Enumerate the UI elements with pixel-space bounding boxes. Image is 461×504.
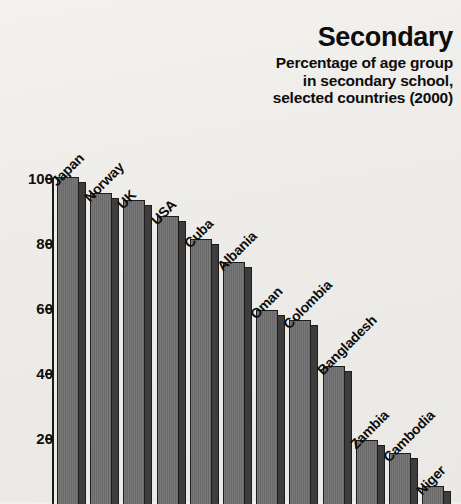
bar-shadow-side xyxy=(112,198,119,504)
bar-face xyxy=(223,262,245,504)
bar xyxy=(190,239,219,504)
bar xyxy=(123,200,152,504)
bar xyxy=(157,216,186,504)
bar-shadow-side xyxy=(278,315,285,504)
y-tick-label: 40 xyxy=(23,366,53,381)
bar-shadow-side xyxy=(245,267,252,504)
bar xyxy=(57,177,86,504)
bar xyxy=(223,262,252,504)
bar xyxy=(256,310,285,504)
bar-face xyxy=(123,200,145,504)
y-tick-label: 60 xyxy=(23,301,53,316)
y-tick-label: 20 xyxy=(23,431,53,446)
bar-shadow-side xyxy=(444,491,451,504)
bar-face xyxy=(256,310,278,504)
bar xyxy=(90,193,119,504)
bar-face xyxy=(57,177,79,504)
bar-shadow-side xyxy=(179,221,186,504)
bar xyxy=(289,320,318,504)
y-axis-line xyxy=(52,179,54,504)
bar-shadow-side xyxy=(145,205,152,504)
bar-face xyxy=(323,366,345,504)
bar-face xyxy=(289,320,311,504)
y-tick-label: 80 xyxy=(23,236,53,251)
bar-face xyxy=(157,216,179,504)
bar-shadow-side xyxy=(311,325,318,504)
bar xyxy=(323,366,352,504)
bar-face xyxy=(190,239,212,504)
bar-shadow-side xyxy=(79,182,86,504)
bar-shadow-side xyxy=(212,244,219,504)
bar-face xyxy=(90,193,112,504)
